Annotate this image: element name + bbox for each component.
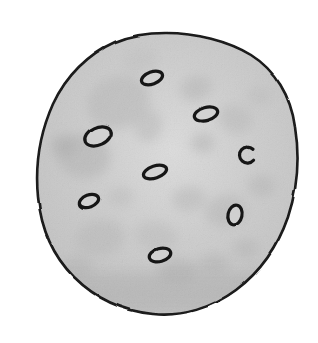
drawing-canvas: Moon Hand-drawn gray moon with nine outl… — [0, 0, 318, 343]
moon-illustration — [0, 0, 318, 343]
